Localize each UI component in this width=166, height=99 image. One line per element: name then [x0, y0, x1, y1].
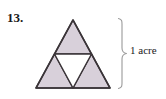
brace-measure-label: 1 acre [130, 45, 157, 56]
top-shaded-triangle [55, 20, 92, 54]
figure-container: 13. 1 acre [0, 0, 166, 99]
right-brace [119, 19, 127, 89]
